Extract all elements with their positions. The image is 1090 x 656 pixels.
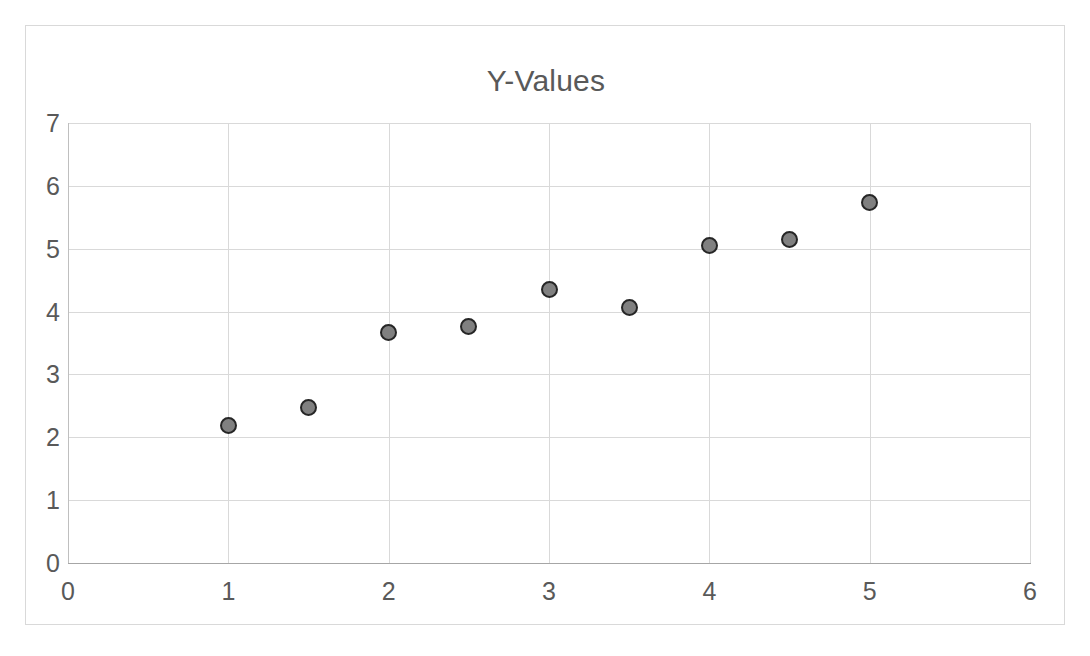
x-axis-line [68, 563, 1031, 564]
x-axis-tick-label: 0 [38, 579, 98, 604]
y-axis-tick-label: 7 [26, 111, 60, 136]
gridline-vertical [549, 123, 550, 563]
x-axis-tick-label: 2 [359, 579, 419, 604]
chart-frame: Y-Values 01234567 0123456 [25, 25, 1065, 625]
y-axis-tick-label: 5 [26, 237, 60, 262]
y-axis-tick-label: 6 [26, 174, 60, 199]
y-axis-tick-label: 3 [26, 362, 60, 387]
x-axis-tick-label: 4 [679, 579, 739, 604]
data-point-marker[interactable] [701, 237, 718, 254]
chart-screenshot: Y-Values 01234567 0123456 [0, 0, 1090, 656]
data-point-marker[interactable] [300, 399, 317, 416]
y-axis-tick-label: 4 [26, 300, 60, 325]
gridline-vertical [228, 123, 229, 563]
y-axis-tick-label: 2 [26, 425, 60, 450]
gridline-vertical [389, 123, 390, 563]
plot-area [68, 123, 1030, 563]
data-point-marker[interactable] [460, 318, 477, 335]
data-point-marker[interactable] [621, 299, 638, 316]
data-point-marker[interactable] [541, 281, 558, 298]
x-axis-tick-label: 1 [198, 579, 258, 604]
gridline-vertical [870, 123, 871, 563]
chart-title: Y-Values [26, 64, 1066, 98]
x-axis-tick-label: 6 [1000, 579, 1060, 604]
x-axis-tick-labels: 0123456 [68, 579, 1030, 613]
y-axis-tick-label: 1 [26, 488, 60, 513]
data-point-marker[interactable] [861, 194, 878, 211]
x-axis-tick-label: 5 [840, 579, 900, 604]
gridline-vertical [1030, 123, 1031, 563]
data-point-marker[interactable] [781, 231, 798, 248]
x-axis-tick-label: 3 [519, 579, 579, 604]
y-axis-line [68, 123, 69, 564]
data-point-marker[interactable] [380, 324, 397, 341]
data-point-marker[interactable] [220, 417, 237, 434]
gridline-vertical [709, 123, 710, 563]
y-axis-tick-labels: 01234567 [26, 123, 60, 564]
y-axis-tick-label: 0 [26, 551, 60, 576]
